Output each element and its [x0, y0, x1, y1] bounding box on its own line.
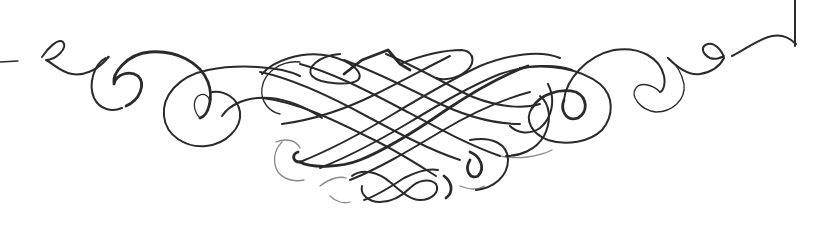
- ornament-canvas: [0, 0, 832, 227]
- flourish-ornament: [0, 0, 832, 227]
- right-scrolls: [506, 44, 724, 156]
- bottom-loops: [320, 169, 484, 202]
- right-corner-bracket: [732, 0, 796, 56]
- left-scrolls: [92, 52, 322, 181]
- center-lattice: [260, 50, 572, 190]
- left-pen-tail: [0, 41, 109, 74]
